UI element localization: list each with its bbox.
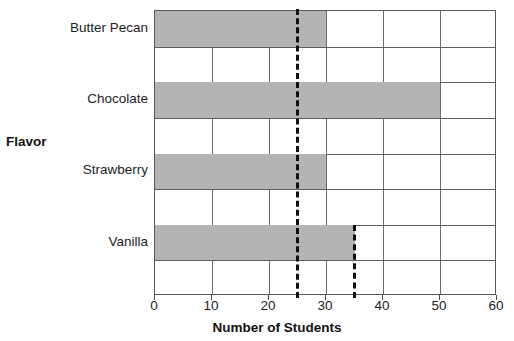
x-axis-tick-label: 60 [476,298,514,313]
secondary-reference-line [353,225,356,298]
y-axis-category-label: Butter Pecan [70,20,148,35]
x-axis-tick-label: 50 [419,298,459,313]
y-axis-category-label: Strawberry [83,162,148,177]
gridline-vertical [440,11,441,294]
x-axis-title: Number of Students [0,320,514,335]
y-axis-category-label: Vanilla [108,234,148,249]
gridline-horizontal [155,260,495,261]
x-axis-tick-label: 40 [362,298,402,313]
gridline-horizontal [155,118,495,119]
x-axis-tick-label: 20 [248,298,288,313]
x-axis-tick-label: 30 [305,298,345,313]
y-axis-category-labels: Butter PecanChocolateStrawberryVanilla [0,0,148,341]
bar-chart: Flavor Butter PecanChocolateStrawberryVa… [0,0,514,341]
bar [155,225,355,261]
bar [155,11,326,47]
y-axis-category-label: Chocolate [87,91,148,106]
gridline-horizontal [155,189,495,190]
x-axis-tick-label: 0 [134,298,174,313]
median-reference-line [296,9,299,298]
bar [155,154,326,190]
x-axis-title-text: Number of Students [212,320,341,335]
x-axis-tick-label: 10 [191,298,231,313]
gridline-horizontal [155,47,495,48]
plot-area [154,10,496,295]
gridline-vertical [383,11,384,294]
